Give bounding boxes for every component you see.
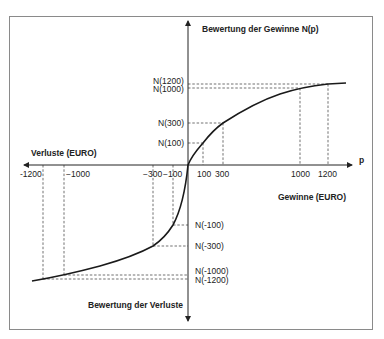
label-n300: N(300) <box>158 118 184 128</box>
label-nm300: N(-300) <box>195 241 224 251</box>
label-nm100: N(-100) <box>195 220 224 230</box>
tick-pos1000: 1000 <box>291 169 310 179</box>
tick-neg300: −300 <box>143 169 162 179</box>
tick-pos1200: 1200 <box>318 169 337 179</box>
label-n1000: N(1000) <box>153 84 184 94</box>
gain-guides <box>188 84 328 165</box>
tick-neg1000: −1000 <box>66 169 90 179</box>
label-n100: N(100) <box>158 138 184 148</box>
losses-label: Verluste (EURO) <box>31 148 97 158</box>
losses-axis-title: Bewertung der Verluste <box>88 300 183 310</box>
tick-pos100: 100 <box>197 169 211 179</box>
x-axis-label: p <box>359 155 364 165</box>
tick-neg100: −100 <box>163 169 182 179</box>
gains-axis-title: Bewertung der Gewinne N(p) <box>202 24 319 34</box>
tick-pos300: 300 <box>215 169 229 179</box>
tick-neg1200: -1200 <box>20 169 42 179</box>
value-function-curve <box>32 83 346 281</box>
value-function-diagram: Bewertung der Gewinne N(p) Bewertung der… <box>0 0 384 339</box>
label-nm1200: N(-1200) <box>195 275 229 285</box>
gains-label: Gewinne (EURO) <box>278 192 346 202</box>
